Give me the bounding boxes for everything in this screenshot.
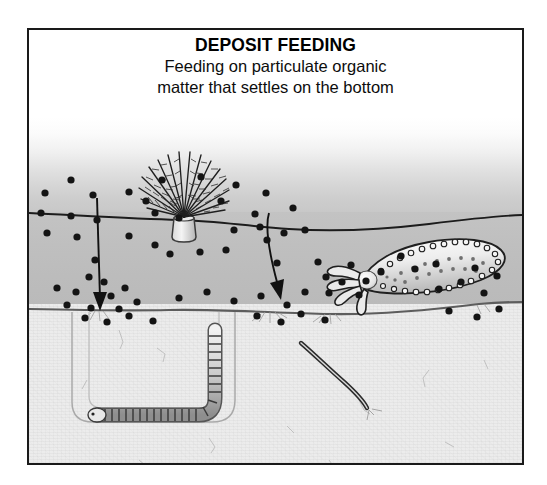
organic-particle [87,304,94,311]
organic-particle [301,288,308,295]
thread-worm-group [301,343,382,420]
organic-particle [495,305,502,312]
water-boundary-line [29,213,522,230]
organic-particle [480,289,487,296]
organic-particle [280,229,287,236]
organic-particle [175,214,182,221]
organic-particle [67,176,74,183]
organic-particle [251,210,258,217]
organic-particle [253,312,260,319]
organic-particle [263,236,270,243]
organic-particle [72,288,79,295]
organic-particle [314,258,321,265]
figure-panel: DEPOSIT FEEDING Feeding on particulate o… [27,28,524,465]
organic-particle [175,294,182,301]
organic-particle [151,241,158,248]
organic-particle [473,313,480,320]
organic-particle [230,297,237,304]
organic-particle [103,318,110,325]
organic-particle [325,289,332,296]
burrowing-worm-eye [91,412,94,415]
organic-particle [222,246,229,253]
fan-worm-group [139,152,229,242]
organic-particle [273,259,280,266]
settling-arrow-left [93,198,107,311]
burrowing-worm-body [97,330,215,415]
organic-particle [257,292,264,299]
organic-particle [432,260,439,267]
organic-particle [121,284,128,291]
organic-particle [362,277,369,284]
organic-particle [41,189,48,196]
fan-worm-tube [172,218,196,242]
organic-particle [142,197,149,204]
organic-particle [125,312,132,319]
organic-particle [93,216,100,223]
organic-particle [91,256,98,263]
organic-particle [63,301,70,308]
organic-particle [37,209,44,216]
burrow-outline-inner [89,312,219,408]
organic-particle [256,223,263,230]
organic-particle [277,318,284,325]
organic-particle [493,272,500,279]
organic-particle [125,188,132,195]
organic-particle [203,288,210,295]
burrowing-worm-group [72,312,235,422]
organic-particle [445,307,452,314]
organic-particle [53,284,60,291]
organic-particle [125,232,132,239]
organic-particle [115,305,122,312]
organic-particle [321,316,328,323]
organic-particle [457,278,464,285]
organic-particle [232,181,239,188]
organic-particle [377,268,384,275]
organic-particle [297,310,304,317]
organic-particle [471,264,478,271]
organic-particle [166,250,173,257]
organic-particle [347,261,354,268]
settling-arrow-right [267,213,284,300]
organic-particle [397,252,404,259]
organic-particle [283,301,290,308]
organic-particle [338,278,345,285]
organic-particle [197,173,204,180]
organic-particle [43,229,50,236]
organic-particle [196,248,203,255]
organic-particle [81,314,88,321]
organic-particle [133,298,140,305]
organic-particle [149,317,156,324]
organic-particle [100,278,107,285]
sediment-cracks [82,330,488,465]
organic-particle [158,176,165,183]
organic-particle [89,191,96,198]
deposit-feeding-scene [29,30,522,463]
burrowing-worm-head [88,408,106,422]
organic-particle [301,226,308,233]
organic-particle [151,209,158,216]
organic-particle [355,291,362,298]
organic-particle [217,197,224,204]
organic-particle [262,189,269,196]
scene-illustration [29,30,522,463]
organic-particle [435,285,442,292]
organic-particle [322,273,329,280]
organic-particle [107,292,114,299]
organic-particle [85,273,92,280]
organic-particle [73,233,80,240]
organic-particle [230,226,237,233]
organic-particle [411,265,418,272]
organic-particle [289,204,296,211]
organic-particle [67,212,74,219]
burrowing-worm-fill [97,330,215,415]
